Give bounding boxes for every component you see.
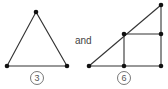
connector-text: and xyxy=(75,35,92,46)
triangle-figure: 3 xyxy=(5,10,70,85)
vertex-dot xyxy=(159,32,164,37)
diagram-canvas: 3 and 6 xyxy=(0,0,168,89)
subdivided-triangle-label: 6 xyxy=(121,73,126,83)
vertex-dot xyxy=(5,64,10,69)
subdivided-triangle-figure: 6 xyxy=(87,3,164,85)
vertex-dot xyxy=(65,64,70,69)
vertex-dot xyxy=(122,32,127,37)
triangle-outline xyxy=(7,12,67,66)
vertex-dot xyxy=(34,10,39,15)
vertex-dot xyxy=(159,64,164,69)
triangle-label: 3 xyxy=(34,73,39,83)
vertex-dot xyxy=(159,3,164,8)
vertex-dot xyxy=(87,64,92,69)
vertex-dot xyxy=(122,64,127,69)
